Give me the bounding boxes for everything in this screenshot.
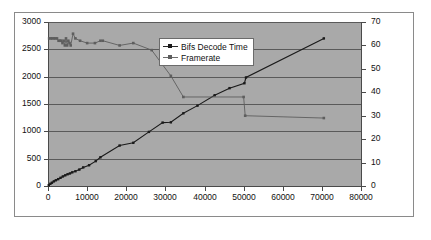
- legend-label: Framerate: [181, 53, 220, 63]
- data-point-marker: [196, 104, 198, 106]
- data-point-marker: [94, 42, 97, 45]
- plot-wrapper: 050010001500200025003000 010203040506070…: [15, 13, 415, 218]
- data-point-marker: [59, 177, 61, 179]
- data-point-marker: [118, 144, 120, 146]
- data-point-marker: [228, 87, 230, 89]
- data-point-marker: [65, 37, 68, 40]
- data-point-marker: [213, 94, 215, 96]
- data-point-marker: [57, 178, 59, 180]
- data-point-marker: [74, 170, 76, 172]
- data-point-marker: [244, 114, 247, 117]
- legend-marker-icon: [163, 42, 178, 51]
- legend-entry-framerate: Framerate: [163, 52, 248, 63]
- data-point-marker: [74, 37, 77, 40]
- data-point-marker: [148, 131, 150, 133]
- data-point-marker: [60, 39, 63, 42]
- data-point-marker: [88, 164, 90, 166]
- data-point-marker: [99, 156, 101, 158]
- data-point-marker: [182, 112, 184, 114]
- data-point-marker: [55, 179, 57, 181]
- data-point-marker: [101, 39, 104, 42]
- data-point-marker: [69, 172, 71, 174]
- data-point-marker: [62, 39, 65, 42]
- data-point-marker: [86, 42, 89, 45]
- data-point-marker: [66, 173, 68, 175]
- chart-frame: 050010001500200025003000 010203040506070…: [14, 12, 414, 217]
- legend-entry-bifs-decode-time: Bifs Decode Time: [163, 41, 248, 52]
- data-point-marker: [72, 32, 75, 35]
- legend-label: Bifs Decode Time: [181, 42, 248, 52]
- data-point-marker: [132, 142, 134, 144]
- data-point-marker: [243, 82, 245, 84]
- data-point-marker: [68, 42, 71, 45]
- data-point-marker: [78, 168, 80, 170]
- data-point-marker: [62, 175, 64, 177]
- data-point-marker: [170, 75, 173, 78]
- data-point-marker: [64, 174, 66, 176]
- data-point-marker: [61, 42, 64, 45]
- data-point-marker: [56, 37, 59, 40]
- data-point-marker: [150, 49, 153, 52]
- data-point-marker: [71, 171, 73, 173]
- data-point-marker: [99, 39, 102, 42]
- data-point-marker: [66, 44, 69, 47]
- data-point-marker: [95, 160, 97, 162]
- data-point-marker: [118, 44, 121, 47]
- data-point-marker: [161, 121, 163, 123]
- data-point-marker: [323, 117, 326, 120]
- chart-legend: Bifs Decode Time Framerate: [159, 38, 254, 66]
- data-point-marker: [245, 76, 247, 78]
- data-point-marker: [182, 96, 185, 99]
- data-point-marker: [69, 44, 72, 47]
- data-point-marker: [170, 121, 172, 123]
- legend-marker-icon: [163, 53, 178, 62]
- data-point-marker: [323, 37, 325, 39]
- data-point-marker: [64, 44, 67, 47]
- data-point-marker: [67, 39, 70, 42]
- data-point-marker: [79, 39, 82, 42]
- data-point-marker: [82, 166, 84, 168]
- data-point-marker: [242, 96, 245, 99]
- data-point-marker: [132, 42, 135, 45]
